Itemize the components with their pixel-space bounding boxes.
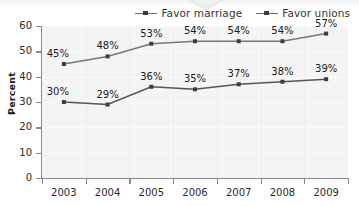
legend-marker-icon — [135, 9, 157, 18]
data-point-label: 57% — [306, 18, 346, 29]
data-point-label: 38% — [262, 66, 302, 77]
vertical-gridline — [173, 26, 174, 178]
x-axis-tick-label: 2008 — [262, 187, 302, 198]
vertical-gridline — [129, 26, 130, 178]
y-axis-tick-label: 60 — [6, 20, 32, 31]
x-axis-tick — [348, 178, 349, 184]
y-axis-tick — [36, 102, 42, 103]
vertical-gridline — [86, 26, 87, 178]
legend-label-favor-marriage: Favor marriage — [161, 7, 242, 19]
x-axis-tick-label: 2005 — [131, 187, 171, 198]
gridline — [42, 127, 348, 128]
y-axis-tick-label: 30 — [6, 96, 32, 107]
y-axis-tick — [36, 77, 42, 78]
data-point-label: 45% — [38, 48, 78, 59]
y-axis-tick-label: 40 — [6, 71, 32, 82]
data-point-label: 39% — [306, 63, 346, 74]
y-axis-tick-label: 0 — [6, 172, 32, 183]
data-point-label: 35% — [175, 73, 215, 84]
legend-item-favor-marriage[interactable]: Favor marriage — [135, 7, 242, 19]
legend-marker-icon — [256, 9, 278, 18]
y-axis-tick — [36, 127, 42, 128]
x-axis-tick — [86, 178, 87, 184]
data-point-label: 54% — [175, 25, 215, 36]
gridline — [42, 51, 348, 52]
gridline — [42, 153, 348, 154]
vertical-gridline — [217, 26, 218, 178]
data-point-label: 29% — [88, 89, 128, 100]
x-axis-tick — [261, 178, 262, 184]
data-point-label: 54% — [262, 25, 302, 36]
y-axis-tick-label: 20 — [6, 121, 32, 132]
y-axis-tick — [36, 26, 42, 27]
y-axis-tick-label: 10 — [6, 147, 32, 158]
vertical-gridline — [261, 26, 262, 178]
data-point-label: 48% — [88, 40, 128, 51]
line-chart: Favor marriage Favor unions Percent 0102… — [0, 0, 359, 206]
chart-legend: Favor marriage Favor unions — [0, 6, 359, 20]
data-point-label: 54% — [219, 25, 259, 36]
x-axis-tick — [42, 178, 43, 184]
y-axis-tick-label: 50 — [6, 45, 32, 56]
data-point-label: 36% — [131, 71, 171, 82]
data-point-label: 30% — [38, 86, 78, 97]
x-axis-tick-label: 2003 — [44, 187, 84, 198]
x-axis-tick — [173, 178, 174, 184]
y-axis-tick — [36, 153, 42, 154]
x-axis-tick-label: 2006 — [175, 187, 215, 198]
x-axis-line — [41, 178, 349, 179]
vertical-gridline — [304, 26, 305, 178]
x-axis-tick — [304, 178, 305, 184]
x-axis-tick-label: 2004 — [88, 187, 128, 198]
x-axis-tick-label: 2007 — [219, 187, 259, 198]
x-axis-tick — [129, 178, 130, 184]
data-point-label: 37% — [219, 68, 259, 79]
x-axis-tick — [217, 178, 218, 184]
data-point-label: 53% — [131, 28, 171, 39]
x-axis-tick-label: 2009 — [306, 187, 346, 198]
gridline — [42, 102, 348, 103]
